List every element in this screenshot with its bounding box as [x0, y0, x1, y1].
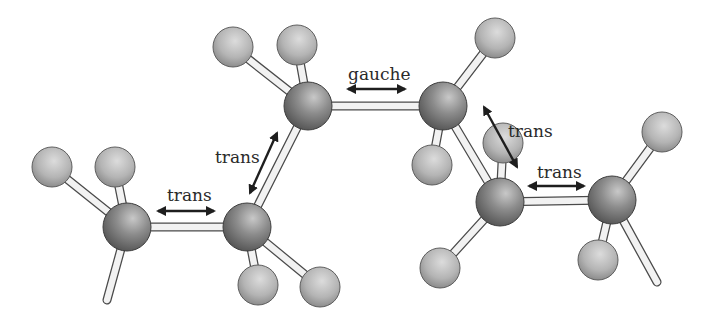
torsion-trans: trans	[529, 162, 584, 186]
torsion-label: trans	[215, 147, 260, 167]
torsion-label: gauche	[348, 64, 411, 84]
hydrogen-atom	[277, 25, 317, 65]
hydrogen-atom	[578, 240, 618, 280]
carbon-atom	[103, 203, 151, 251]
torsion-label: trans	[508, 121, 553, 141]
hydrogen-atom	[300, 267, 340, 307]
carbon-atom	[223, 203, 271, 251]
molecule-diagram: transtransgauchetranstrans	[0, 0, 708, 322]
hydrogen-atom	[412, 145, 452, 185]
hydrogen-atom	[642, 112, 682, 152]
hydrogen-atom	[213, 27, 253, 67]
torsion-label: trans	[537, 162, 582, 182]
hydrogen-atom	[475, 18, 515, 58]
carbon-atom	[588, 176, 636, 224]
hydrogen-atom	[95, 147, 135, 187]
carbon-atom	[419, 82, 467, 130]
hydrogen-atom	[32, 147, 72, 187]
atoms-layer	[32, 18, 682, 307]
carbon-atom	[284, 82, 332, 130]
hydrogen-atom	[238, 265, 278, 305]
torsion-label: trans	[167, 185, 212, 205]
hydrogen-atom	[420, 248, 460, 288]
carbon-atom	[476, 178, 524, 226]
torsion-trans: trans	[158, 185, 214, 211]
torsion-gauche: gauche	[348, 64, 411, 89]
